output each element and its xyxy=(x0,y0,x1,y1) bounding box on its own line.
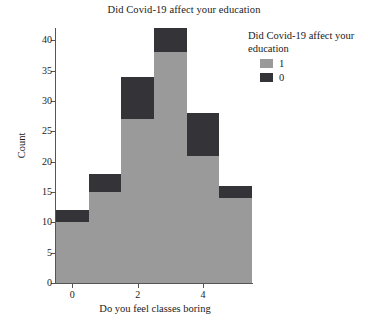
bar-segment-1 xyxy=(89,192,122,283)
bar-segment-0 xyxy=(219,186,252,198)
x-axis-label: Do you feel classes boring xyxy=(40,303,270,314)
bar-group xyxy=(154,28,187,283)
x-tick-label: 2 xyxy=(126,289,150,301)
bar-segment-1 xyxy=(154,52,187,283)
bar-segment-0 xyxy=(121,77,154,120)
y-tick-label: 0 xyxy=(26,278,52,288)
y-tick-label: 25 xyxy=(26,126,52,136)
bar-segment-0 xyxy=(154,28,187,52)
bar-group xyxy=(121,28,154,283)
x-tick-label: 4 xyxy=(191,289,215,301)
legend-swatch-icon xyxy=(260,59,273,68)
legend-entries: 10 xyxy=(248,58,366,83)
plot-area xyxy=(56,28,252,283)
y-axis-label: Count xyxy=(16,116,27,176)
bar-segment-0 xyxy=(89,174,122,192)
bar-group xyxy=(56,28,89,283)
bar-group xyxy=(187,28,220,283)
bar-segment-0 xyxy=(56,210,89,222)
x-tick-mark xyxy=(203,284,204,288)
bar-segment-0 xyxy=(187,113,220,156)
legend-label: 0 xyxy=(279,72,284,83)
legend-item[interactable]: 0 xyxy=(260,72,366,83)
y-tick-label: 15 xyxy=(26,187,52,197)
x-tick-mark xyxy=(138,284,139,288)
y-tick-label: 30 xyxy=(26,96,52,106)
y-tick-label: 20 xyxy=(26,157,52,167)
bar-segment-1 xyxy=(187,156,220,284)
legend-title: Did Covid-19 affect your education xyxy=(248,30,366,55)
y-tick-label: 35 xyxy=(26,66,52,76)
chart-figure: Did Covid-19 affect your education Count… xyxy=(0,0,368,324)
bar-group xyxy=(89,28,122,283)
legend-swatch-icon xyxy=(260,73,273,82)
stacked-bars xyxy=(56,28,252,283)
bar-segment-1 xyxy=(219,198,252,283)
bar-segment-1 xyxy=(56,222,89,283)
legend: Did Covid-19 affect your education 10 xyxy=(248,30,366,83)
y-tick-label: 40 xyxy=(26,35,52,45)
y-tick-label: 10 xyxy=(26,217,52,227)
x-tick-mark xyxy=(72,284,73,288)
bar-segment-1 xyxy=(121,119,154,283)
chart-title: Did Covid-19 affect your education xyxy=(0,4,368,15)
x-tick-label: 0 xyxy=(60,289,84,301)
y-tick-label: 5 xyxy=(26,248,52,258)
legend-item[interactable]: 1 xyxy=(260,58,366,69)
x-axis-line xyxy=(55,283,253,284)
legend-label: 1 xyxy=(279,58,284,69)
